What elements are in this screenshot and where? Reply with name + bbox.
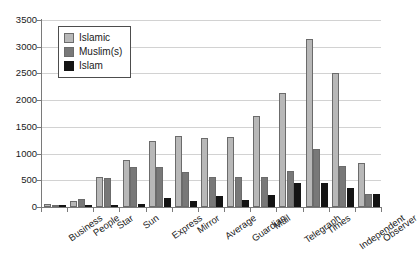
y-tick-mark (37, 100, 42, 101)
bar-group (201, 20, 223, 207)
bar (156, 167, 163, 207)
legend-label: Muslim(s) (79, 47, 122, 57)
legend-item: Islam (64, 59, 122, 73)
bar (182, 172, 189, 207)
x-tick-mark (276, 208, 277, 212)
x-axis-label: Sun (141, 213, 161, 231)
bar (149, 141, 156, 207)
bar-group (149, 20, 171, 207)
bar (123, 160, 130, 207)
legend-swatch-icon (64, 33, 74, 43)
bar (365, 194, 372, 207)
bar (227, 137, 234, 207)
x-tick-mark (355, 208, 356, 212)
x-tick-mark (67, 208, 68, 212)
x-tick-mark (329, 208, 330, 212)
bar-group (358, 20, 380, 207)
x-tick-mark (303, 208, 304, 212)
y-tick-label: 1000 (0, 149, 37, 159)
y-tick-mark (37, 47, 42, 48)
y-tick-mark (37, 127, 42, 128)
bar (209, 177, 216, 207)
bar-group (253, 20, 275, 207)
bar (261, 177, 268, 207)
bar (130, 167, 137, 207)
x-tick-mark (119, 208, 120, 212)
bar (175, 136, 182, 207)
bar (164, 198, 171, 207)
bar (347, 188, 354, 207)
bar (332, 73, 339, 207)
x-tick-mark (146, 208, 147, 212)
bar (373, 194, 380, 207)
legend-item: Islamic (64, 31, 122, 45)
legend-label: Islamic (79, 33, 110, 43)
x-tick-mark (172, 208, 173, 212)
bar (104, 178, 111, 207)
x-tick-mark (198, 208, 199, 212)
x-axis-line (41, 207, 382, 208)
bar (358, 163, 365, 207)
x-tick-mark (250, 208, 251, 212)
x-axis-label: Star (115, 213, 135, 231)
bar (78, 199, 85, 207)
bar (235, 177, 242, 207)
y-tick-label: 3000 (0, 42, 37, 52)
x-tick-mark (93, 208, 94, 212)
y-tick-label: 0 (0, 202, 37, 212)
y-tick-mark (37, 73, 42, 74)
y-tick-label: 1500 (0, 122, 37, 132)
bar (321, 183, 328, 207)
bar (253, 116, 260, 207)
bar (294, 183, 301, 207)
bar (313, 149, 320, 207)
x-tick-mark (41, 208, 42, 212)
chart-legend: IslamicMuslim(s)Islam (58, 26, 131, 78)
bar (96, 177, 103, 207)
legend-item: Muslim(s) (64, 45, 122, 59)
bar (279, 93, 286, 207)
bar (339, 166, 346, 207)
y-tick-mark (37, 154, 42, 155)
bar (216, 196, 223, 207)
legend-swatch-icon (64, 47, 74, 57)
y-tick-mark (37, 180, 42, 181)
y-tick-label: 2500 (0, 68, 37, 78)
bar (242, 200, 249, 207)
y-tick-label: 3500 (0, 15, 37, 25)
bar (306, 39, 313, 207)
x-tick-mark (381, 208, 382, 212)
bar-group (306, 20, 328, 207)
y-tick-label: 2000 (0, 95, 37, 105)
bar-group (279, 20, 301, 207)
bar (201, 138, 208, 207)
bar (287, 171, 294, 207)
x-tick-mark (224, 208, 225, 212)
y-tick-mark (37, 20, 42, 21)
bar (268, 195, 275, 207)
legend-label: Islam (79, 61, 103, 71)
bar-group (227, 20, 249, 207)
y-tick-label: 500 (0, 175, 37, 185)
bar-group (332, 20, 354, 207)
bar-group (175, 20, 197, 207)
legend-swatch-icon (64, 61, 74, 71)
